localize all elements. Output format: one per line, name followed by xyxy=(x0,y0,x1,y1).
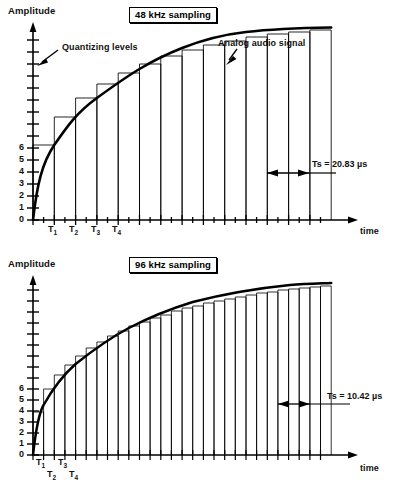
y-tick-label-2-bottom: 2 xyxy=(14,427,24,437)
sample-label-t4-top: T4 xyxy=(112,224,121,236)
y-tick-label-4: 4 xyxy=(14,166,24,176)
y-tick-label-2: 2 xyxy=(14,190,24,200)
sample-hold-bars-48khz xyxy=(33,30,331,220)
x-axis-top xyxy=(33,215,358,225)
x-axis-bottom xyxy=(33,450,358,460)
y-tick-label-0-bottom: 0 xyxy=(14,449,24,459)
sample-label-t2-top: T2 xyxy=(69,224,78,236)
arrow-analog-signal-top xyxy=(226,49,237,65)
chart-panel-96khz: Amplitude 96 kHz sampling Ts = 10.42 µs … xyxy=(0,243,399,486)
sample-label-t2-bottom: T2 xyxy=(47,469,56,481)
y-tick-label-6-bottom: 6 xyxy=(14,383,24,393)
y-tick-label-5-bottom: 5 xyxy=(14,394,24,404)
sample-label-t1-bottom: T1 xyxy=(36,457,45,469)
y-tick-label-4-bottom: 4 xyxy=(14,405,24,415)
ts-arrow-48khz xyxy=(267,169,336,176)
y-tick-label-3: 3 xyxy=(14,178,24,188)
y-tick-label-5: 5 xyxy=(14,154,24,164)
y-tick-label-1-bottom: 1 xyxy=(14,438,24,448)
chart-panel-48khz: Amplitude 48 kHz sampling Quantizing lev… xyxy=(0,0,399,243)
sample-label-t3-top: T3 xyxy=(91,224,100,236)
sample-label-t4-bottom: T4 xyxy=(69,469,78,481)
y-tick-label-1: 1 xyxy=(14,202,24,212)
y-tick-label-6: 6 xyxy=(14,142,24,152)
arrow-quantizing-levels-top xyxy=(37,50,58,66)
chart-graphics-96khz xyxy=(0,243,399,486)
sample-hold-bars-96khz xyxy=(33,286,331,455)
sample-label-t1-top: T1 xyxy=(48,224,57,236)
y-tick-label-3-bottom: 3 xyxy=(14,416,24,426)
y-tick-label-0: 0 xyxy=(14,214,24,224)
sample-label-t3-bottom: T3 xyxy=(58,457,67,469)
chart-graphics-48khz xyxy=(0,0,399,243)
ts-arrow-96khz xyxy=(278,400,350,407)
